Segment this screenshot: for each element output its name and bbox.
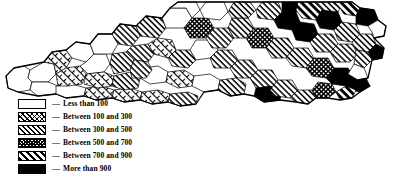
map-region <box>218 78 246 96</box>
legend-item[interactable]: — Between 700 and 900 <box>18 149 218 162</box>
legend-dash: — <box>52 100 60 108</box>
map-region <box>84 72 114 88</box>
map-region <box>136 16 166 38</box>
legend-item[interactable]: — Between 300 and 500 <box>18 123 218 136</box>
legend-label-less-than-100: Less than 100 <box>63 100 108 108</box>
north-carolina-choropleth-map <box>0 0 397 108</box>
map-region <box>312 82 336 98</box>
legend-item[interactable]: — Between 500 and 700 <box>18 136 218 149</box>
legend-item[interactable]: — Between 100 and 300 <box>18 110 218 123</box>
legend-swatch-more-than-900 <box>18 164 46 174</box>
legend-dash: — <box>52 152 60 160</box>
map-region <box>228 2 256 18</box>
legend-dash: — <box>52 113 60 121</box>
legend-label-500-700: Between 500 and 700 <box>63 139 132 147</box>
legend-label-300-500: Between 300 and 500 <box>63 126 132 134</box>
legend-item[interactable]: — More than 900 <box>18 162 218 175</box>
legend-label-more-than-900: More than 900 <box>63 165 111 173</box>
legend-swatch-100-300 <box>18 112 46 122</box>
map-region <box>166 70 194 88</box>
map-regions <box>6 2 386 106</box>
legend-dash: — <box>52 139 60 147</box>
map-svg <box>0 0 397 108</box>
legend-swatch-500-700 <box>18 138 46 148</box>
legend-swatch-300-500 <box>18 125 46 135</box>
figure-root: — Less than 100 — Between 100 and 300 — … <box>0 0 397 189</box>
legend-dash: — <box>52 126 60 134</box>
legend-label-700-900: Between 700 and 900 <box>63 152 132 160</box>
map-region <box>192 74 220 92</box>
legend-swatch-700-900 <box>18 151 46 161</box>
legend-item[interactable]: — Less than 100 <box>18 97 218 110</box>
legend-dash: — <box>52 165 60 173</box>
legend-label-100-300: Between 100 and 300 <box>63 113 132 121</box>
map-legend: — Less than 100 — Between 100 and 300 — … <box>18 97 218 175</box>
map-region <box>200 2 228 20</box>
legend-swatch-less-than-100 <box>18 99 46 109</box>
